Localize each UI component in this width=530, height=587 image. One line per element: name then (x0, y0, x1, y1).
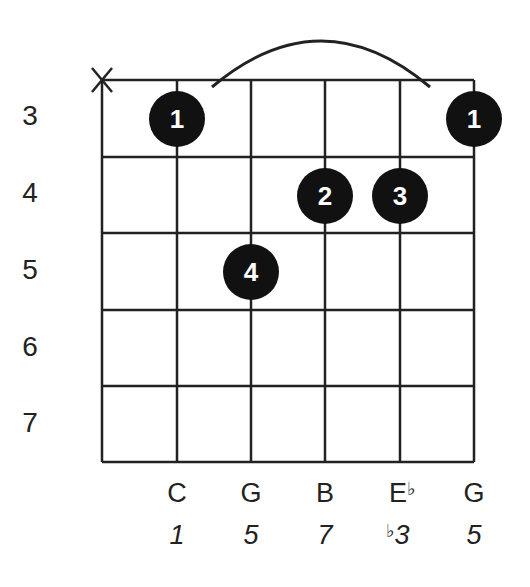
note-label-e-flat: E♭ (377, 478, 427, 509)
finger-number: 2 (318, 181, 332, 212)
interval-label-flat-third: ♭3 (368, 520, 428, 551)
finger-number: 1 (170, 104, 184, 135)
interval-label-root: 1 (147, 520, 207, 551)
finger-dot-string2-fret3: 1 (149, 91, 205, 147)
fret-number-7: 7 (10, 407, 50, 439)
finger-dot-string4-fret4: 2 (297, 168, 353, 224)
flat-symbol: ♭ (407, 479, 415, 499)
interval-label-fifth-high: 5 (444, 520, 504, 551)
fret-number-6: 6 (10, 331, 50, 363)
note-label-b: B (300, 478, 350, 509)
note-label-g: G (226, 478, 276, 509)
fret-number-4: 4 (10, 177, 50, 209)
note-letter: E (389, 478, 407, 508)
fret-number-3: 3 (10, 100, 50, 132)
finger-number: 1 (467, 104, 481, 135)
fret-number-5: 5 (10, 254, 50, 286)
finger-dot-string3-fret5: 4 (223, 244, 279, 300)
finger-dot-string5-fret4: 3 (372, 168, 428, 224)
interval-number: 3 (394, 520, 409, 550)
finger-number: 4 (244, 257, 258, 288)
interval-label-fifth: 5 (221, 520, 281, 551)
finger-number: 3 (393, 181, 407, 212)
note-label-c: C (152, 478, 202, 509)
note-label-g-high: G (449, 478, 499, 509)
interval-label-seventh: 7 (295, 520, 355, 551)
finger-dot-string6-fret3: 1 (446, 91, 502, 147)
